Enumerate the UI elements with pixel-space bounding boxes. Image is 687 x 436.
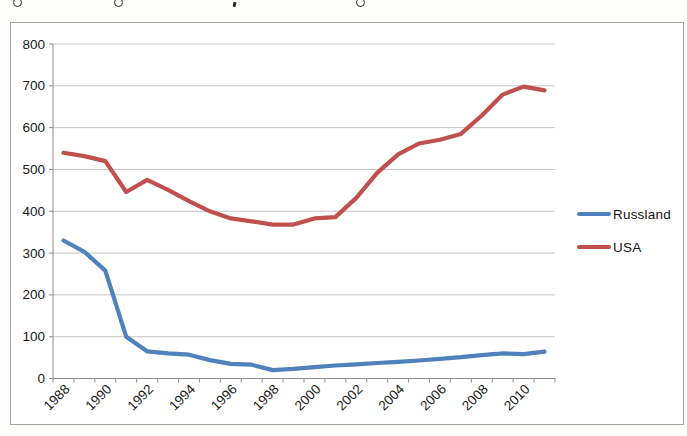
chart-frame: 0100200300400500600700800198819901992199… [10, 22, 684, 425]
svg-text:2000: 2000 [292, 382, 324, 414]
svg-text:1996: 1996 [208, 382, 240, 414]
svg-text:600: 600 [22, 120, 45, 135]
svg-text:300: 300 [22, 246, 45, 261]
svg-text:2002: 2002 [334, 382, 366, 414]
svg-text:1992: 1992 [124, 382, 156, 414]
svg-text:2004: 2004 [375, 381, 407, 413]
svg-text:800: 800 [22, 37, 45, 52]
cropped-title [0, 0, 687, 9]
legend-label-russland: Russland [613, 207, 671, 222]
svg-text:2010: 2010 [501, 382, 533, 414]
svg-text:100: 100 [22, 329, 45, 344]
svg-text:0: 0 [37, 371, 45, 386]
scanned-chart-page: 0100200300400500600700800198819901992199… [0, 0, 687, 436]
legend-line-usa [577, 245, 611, 250]
svg-text:1994: 1994 [166, 381, 198, 413]
svg-text:1988: 1988 [41, 382, 73, 414]
svg-text:1990: 1990 [83, 382, 115, 414]
svg-text:700: 700 [22, 78, 45, 93]
legend-item-russland: Russland [577, 205, 671, 223]
svg-text:2006: 2006 [417, 382, 449, 414]
legend-line-russland [577, 212, 611, 217]
svg-text:400: 400 [22, 204, 45, 219]
svg-text:2008: 2008 [459, 382, 491, 414]
chart-legend: Russland USA [577, 205, 671, 256]
legend-item-usa: USA [577, 238, 671, 256]
svg-text:1998: 1998 [250, 382, 282, 414]
svg-text:500: 500 [22, 162, 45, 177]
svg-text:200: 200 [22, 287, 45, 302]
legend-label-usa: USA [613, 240, 641, 255]
